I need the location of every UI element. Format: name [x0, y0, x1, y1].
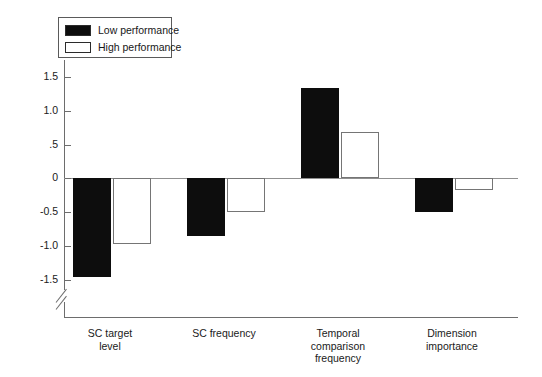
axis-break-icon [55, 288, 75, 308]
bar-high-performance-group-1 [113, 178, 151, 244]
y-tick-mark [65, 77, 71, 78]
y-tick-mark [65, 246, 71, 247]
bar-low-performance-group-4 [415, 178, 453, 212]
x-category-label-line: SC target [62, 327, 158, 340]
bar-chart: Low performance High performance 1.5 1.0… [0, 0, 542, 377]
x-category-label-line: frequency [290, 352, 386, 365]
y-tick-label-1_0: 1.0 [14, 105, 58, 116]
bar-high-performance-group-2 [227, 178, 265, 212]
x-category-label-line: Temporal [290, 327, 386, 340]
y-tick-label-neg1_0: -1.0 [14, 240, 58, 251]
bar-low-performance-group-1 [73, 178, 111, 277]
plot-area: 1.5 1.0 .5 0 -0.5 -1.0 -1.5 SC targetlev… [0, 0, 542, 377]
y-tick-mark [65, 212, 71, 213]
y-tick-mark [65, 178, 71, 179]
bar-low-performance-group-2 [187, 178, 225, 236]
x-category-label-sc-frequency: SC frequency [176, 327, 272, 340]
y-tick-label-neg0_5: -0.5 [14, 206, 58, 217]
y-tick-mark [65, 280, 71, 281]
x-category-label-sc-target-level: SC targetlevel [62, 327, 158, 352]
x-category-label-line: importance [404, 340, 500, 353]
y-tick-label-0: 0 [14, 172, 58, 183]
bar-high-performance-group-4 [455, 178, 493, 190]
y-tick-mark [65, 145, 71, 146]
x-category-label-temporal-comparison-frequency: Temporalcomparisonfrequency [290, 327, 386, 365]
bar-low-performance-group-3 [301, 88, 339, 178]
x-category-label-line: level [62, 340, 158, 353]
x-category-label-line: Dimension [404, 327, 500, 340]
x-axis-line [64, 317, 518, 318]
y-axis-line [64, 60, 65, 290]
y-tick-label-neg1_5: -1.5 [14, 274, 58, 285]
x-category-label-dimension-importance: Dimensionimportance [404, 327, 500, 352]
y-tick-label-0_5: .5 [14, 139, 58, 150]
x-category-label-line: comparison [290, 340, 386, 353]
y-tick-mark [65, 111, 71, 112]
x-category-label-line: SC frequency [176, 327, 272, 340]
bar-high-performance-group-3 [341, 132, 379, 178]
y-tick-label-1_5: 1.5 [14, 71, 58, 82]
